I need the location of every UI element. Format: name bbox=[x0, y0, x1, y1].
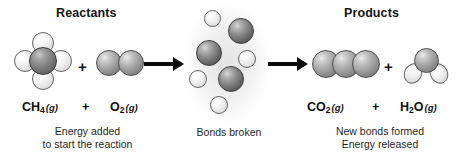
formula-oxygen-state: (g) bbox=[125, 102, 137, 113]
formula-carbon-dioxide: CO2(g) bbox=[307, 100, 344, 115]
formula-carbon-dioxide-subscript: 2 bbox=[326, 105, 331, 115]
carbon-dioxide-molecule bbox=[312, 50, 380, 78]
plus-sign-formula-right: + bbox=[372, 100, 379, 114]
water-molecule bbox=[404, 48, 448, 84]
oxygen-atom bbox=[118, 50, 144, 76]
arrow-head bbox=[297, 57, 308, 71]
formula-oxygen-subscript: 2 bbox=[120, 105, 125, 115]
heading-products: Products bbox=[344, 6, 399, 20]
caption-energy-added-line1: Energy added bbox=[0, 125, 175, 138]
caption-energy-added: Energy added to start the reaction bbox=[0, 125, 175, 150]
caption-bonds-broken: Bonds broken bbox=[180, 126, 278, 139]
arrow-shaft bbox=[144, 62, 174, 66]
caption-new-bonds-formed: New bonds formed Energy released bbox=[300, 125, 460, 150]
caption-new-bonds-formed-line1: New bonds formed bbox=[300, 125, 460, 138]
hydrogen-atom bbox=[238, 50, 256, 68]
reaction-arrow-icon bbox=[144, 57, 184, 71]
formula-water-state: (g) bbox=[425, 102, 437, 113]
formula-carbon-dioxide-state: (g) bbox=[331, 102, 343, 113]
formula-water-symbol2: O bbox=[414, 100, 424, 114]
plus-sign-formula-left: + bbox=[82, 100, 89, 114]
formula-methane: CH4(g) bbox=[22, 100, 58, 115]
oxygen-atom bbox=[196, 40, 222, 66]
formula-carbon-dioxide-symbol: CO bbox=[307, 100, 326, 114]
formula-water-symbol: H bbox=[400, 100, 409, 114]
formula-oxygen: O2(g) bbox=[110, 100, 138, 115]
caption-energy-added-line2: to start the reaction bbox=[0, 138, 175, 151]
oxygen-atom bbox=[352, 50, 380, 78]
hydrogen-atom bbox=[189, 70, 207, 88]
plus-sign-molecules-right: + bbox=[384, 58, 393, 75]
heading-reactants: Reactants bbox=[56, 6, 117, 20]
reaction-arrow-icon bbox=[268, 57, 308, 71]
caption-new-bonds-formed-line2: Energy released bbox=[300, 138, 460, 151]
reaction-diagram: Reactants Products + bbox=[0, 0, 461, 162]
formula-water: H2O(g) bbox=[400, 100, 437, 115]
hydrogen-atom bbox=[210, 96, 228, 114]
hydrogen-atom bbox=[204, 10, 221, 27]
formula-methane-symbol: CH bbox=[22, 100, 40, 114]
oxygen-atom bbox=[218, 66, 244, 92]
formula-oxygen-symbol: O bbox=[110, 100, 120, 114]
formula-methane-subscript: 4 bbox=[40, 105, 45, 115]
caption-bonds-broken-line1: Bonds broken bbox=[180, 126, 278, 139]
formula-methane-state: (g) bbox=[46, 102, 58, 113]
plus-sign-molecules-left: + bbox=[78, 58, 87, 75]
carbon-atom bbox=[29, 47, 57, 75]
oxygen-atom bbox=[228, 18, 254, 44]
methane-molecule bbox=[14, 32, 72, 90]
oxygen-atom bbox=[414, 48, 439, 73]
oxygen-molecule bbox=[96, 50, 144, 76]
broken-bonds-cluster bbox=[182, 4, 274, 122]
arrow-shaft bbox=[268, 62, 298, 66]
